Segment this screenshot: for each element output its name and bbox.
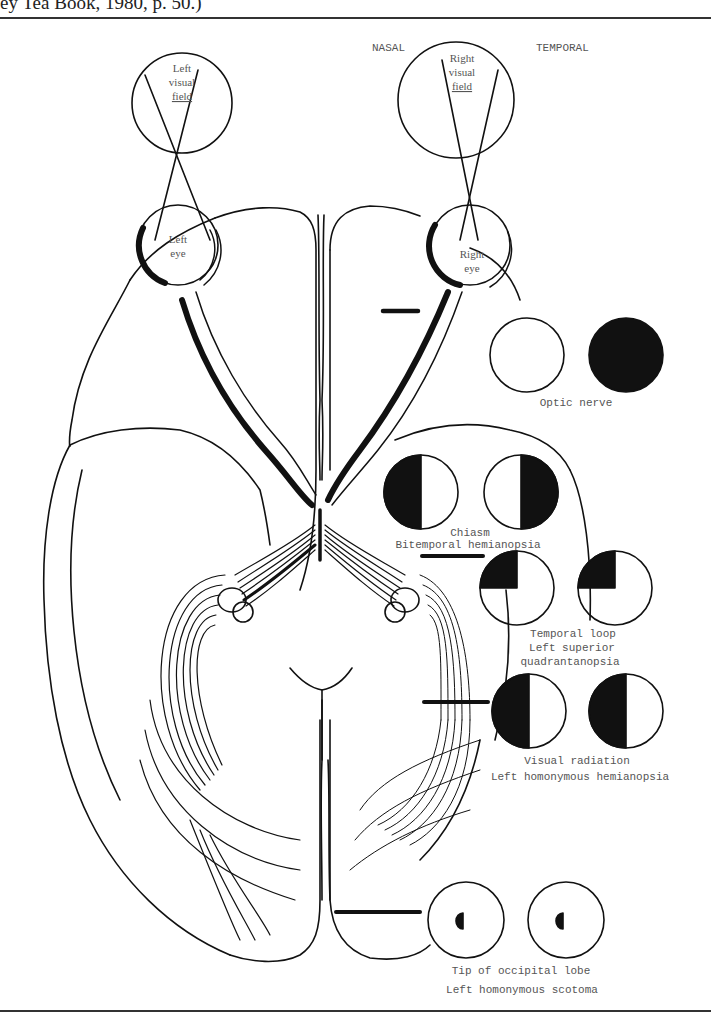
temporal-loop-site-label: Temporal loop	[530, 628, 616, 640]
temporal-label: TEMPORAL	[536, 42, 589, 54]
left-optic-nerve	[182, 292, 316, 505]
right-visual-field-label-3: field	[452, 80, 473, 92]
visual-radiation-fields: Visual radiation Left homonymous hemiano…	[491, 674, 670, 783]
right-eye-label-1: Right	[460, 248, 484, 260]
right-optic-radiation	[350, 575, 480, 870]
visual-radiation-site-label: Visual radiation	[524, 755, 630, 767]
chiasm-fields: Chiasm Bitemporal hemianopsia	[384, 455, 558, 551]
occipital-tip-right-field	[528, 882, 604, 958]
right-visual-field-label-2: visual	[449, 66, 475, 78]
right-visual-field: Right visual field	[398, 42, 514, 240]
temporal-loop-deficit-label-2: quadrantanopsia	[520, 656, 619, 668]
left-optic-radiation	[140, 575, 300, 940]
left-visual-field: Left visual field	[132, 53, 232, 240]
optic-nerve-right-field	[589, 318, 663, 392]
left-eye-label-2: eye	[170, 247, 185, 259]
optic-nerve-left-field	[490, 318, 564, 392]
left-eye: Left eye	[138, 205, 221, 285]
temporal-loop-fields: Temporal loop Left superior quadrantanop…	[480, 551, 652, 668]
left-visual-field-label-2: visual	[169, 76, 195, 88]
left-eye-label-1: Left	[169, 233, 187, 245]
chiasm-deficit-label: Bitemporal hemianopsia	[395, 539, 541, 551]
visual-radiation-deficit-label: Left homonymous hemianopsia	[491, 771, 670, 783]
right-hemisphere-outline	[330, 206, 590, 959]
right-lateral-geniculate	[385, 588, 419, 622]
chiasm-site-label: Chiasm	[450, 527, 490, 539]
occipital-tip-fields: Tip of occipital lobe Left homonymous sc…	[428, 882, 604, 996]
right-visual-field-label-1: Right	[450, 52, 474, 64]
occipital-tip-deficit-label: Left homonymous scotoma	[446, 984, 598, 996]
left-optic-tract	[235, 525, 315, 606]
optic-nerve-site-label: Optic nerve	[540, 397, 613, 409]
optic-nerve-fields: Optic nerve	[490, 318, 663, 409]
bottom-divider	[0, 1010, 711, 1012]
temporal-loop-deficit-label-1: Left superior	[529, 642, 615, 654]
left-visual-field-label-3: field	[172, 90, 193, 102]
right-eye: Right eye	[429, 205, 511, 287]
left-hemisphere-outline	[44, 208, 320, 962]
occipital-tip-site-label: Tip of occipital lobe	[452, 965, 591, 977]
visual-pathway-diagram: Left visual field Right visual field NAS…	[0, 0, 711, 1029]
nasal-label: NASAL	[372, 42, 405, 54]
occipital-tip-left-field	[428, 882, 504, 958]
right-eye-label-2: eye	[464, 262, 479, 274]
left-visual-field-label-1: Left	[173, 62, 191, 74]
